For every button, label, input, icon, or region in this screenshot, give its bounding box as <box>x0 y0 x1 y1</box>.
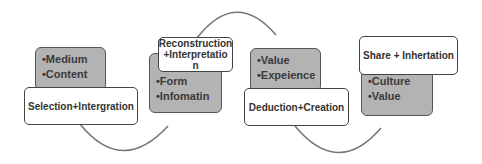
arc-stage3-to-stage4 <box>295 126 381 153</box>
stage-4-item: •Culture <box>368 74 426 89</box>
stage-4-title: Share + Inhertation <box>363 50 454 61</box>
stage-2-title-line: +Interpretatio <box>163 49 227 60</box>
stage-3-item: •Expeience <box>257 68 314 83</box>
stage-1-title-box: Selection+Intergration <box>24 87 138 125</box>
stage-3-details: •Value •Expeience <box>250 48 321 92</box>
arc-stage1-to-stage2 <box>80 124 168 151</box>
stage-1-item: •Medium <box>42 52 99 67</box>
stage-3-title: Deduction+Creation <box>249 102 344 113</box>
stage-3-title-box: Deduction+Creation <box>244 88 349 126</box>
stage-2-item: •Infomatin <box>156 89 215 104</box>
stage-4-title-box: Share + Inhertation <box>359 36 458 75</box>
stage-4-details: •Culture •Value <box>361 70 433 116</box>
stage-2-title-line: n <box>192 60 198 71</box>
stage-1-details: •Medium •Content <box>35 47 106 91</box>
stage-1-title: Selection+Intergration <box>28 101 134 112</box>
stage-2-title-line: Reconstruction <box>159 38 232 49</box>
stage-2-title-box: Reconstruction +Interpretatio n <box>158 37 233 72</box>
stage-4-item: •Value <box>368 89 426 104</box>
arc-stage2-to-stage3 <box>197 12 276 38</box>
stage-2-item: •Form <box>156 74 215 89</box>
stage-3-item: •Value <box>257 53 314 68</box>
stage-1-item: •Content <box>42 67 99 82</box>
